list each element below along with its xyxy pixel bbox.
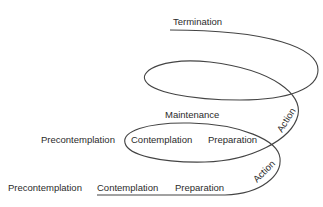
precontemplation-label-level1: Precontemplation [8,183,82,193]
maintenance-label: Maintenance [165,110,219,120]
precontemplation-label-level2: Precontemplation [41,135,115,145]
termination-label: Termination [173,17,222,27]
contemplation-label-level2: Contemplation [131,135,192,145]
stages-of-change-spiral-diagram: Action Action Termination Maintenance Pr… [0,0,323,207]
preparation-label-level2: Preparation [208,135,257,145]
action-label-upper: Action [274,106,297,134]
preparation-label-level1: Preparation [175,183,224,193]
contemplation-label-level1: Contemplation [97,183,158,193]
spiral-path-graphic: Action Action [0,0,323,207]
action-label-lower: Action [251,158,277,184]
